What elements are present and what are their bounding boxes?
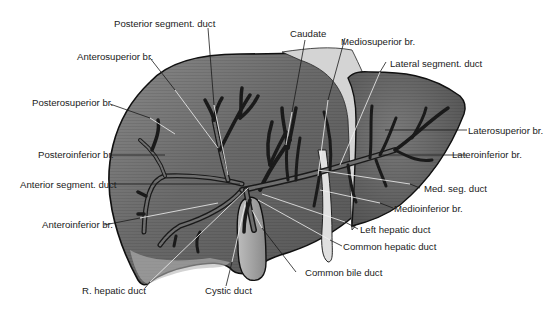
label-cystic-duct: Cystic duct xyxy=(205,285,252,296)
label-anteroinferior-br: Anteroinferior br. xyxy=(42,219,113,230)
label-anterosuperior-br: Anterosuperior br. xyxy=(77,51,153,62)
label-posterior-segment-duct: Posterior segment. duct xyxy=(114,18,216,29)
label-left-hepatic-duct: Left hepatic duct xyxy=(360,224,431,235)
label-mediosuperior-br: Mediosuperior br. xyxy=(341,36,415,47)
label-r-hepatic-duct: R. hepatic duct xyxy=(82,285,146,296)
label-common-hepatic-duct: Common hepatic duct xyxy=(343,241,437,252)
label-laterosuperior-br: Laterosuperior br. xyxy=(468,125,543,136)
label-common-bile-duct: Common bile duct xyxy=(305,267,383,278)
label-posterosuperior-br: Posterosuperior br. xyxy=(32,97,113,108)
label-medioinferior-br: Medioinferior br. xyxy=(394,203,463,214)
liver-right-lobe xyxy=(109,52,355,285)
label-lateroinferior-br: Lateroinferior br. xyxy=(452,149,522,160)
label-caudate: Caudate xyxy=(290,28,326,39)
label-posteroinferior-br: Posteroinferior br. xyxy=(38,149,114,160)
label-anterior-segment-duct: Anterior segment. duct xyxy=(20,179,117,190)
label-med-seg-duct: Med. seg. duct xyxy=(424,183,487,194)
liver-bile-duct-diagram: Posterior segment. duct Anterosuperior b… xyxy=(0,0,552,311)
label-lateral-segment-duct: Lateral segment. duct xyxy=(390,58,483,69)
